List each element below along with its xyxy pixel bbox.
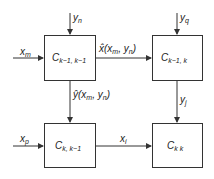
label-yhat: ŷ(xm, yn) xyxy=(73,90,110,101)
box-label-ck-1k: Ck−1, k xyxy=(161,53,187,64)
box-label-ckk: Ck k xyxy=(167,141,183,152)
label-yq: yq xyxy=(180,13,189,24)
label-xm: xm xyxy=(20,47,31,58)
label-yj: yj xyxy=(180,95,187,106)
label-xhat: x̂(xm, yn) xyxy=(99,44,136,55)
label-xi: xi xyxy=(120,134,127,145)
label-yn: yn xyxy=(73,13,82,24)
label-xp: xp xyxy=(20,134,29,145)
box-label-ckk-1: Ck, k−1 xyxy=(55,141,81,152)
box-label-ck-1k-1: Ck−1, k−1 xyxy=(52,53,86,64)
